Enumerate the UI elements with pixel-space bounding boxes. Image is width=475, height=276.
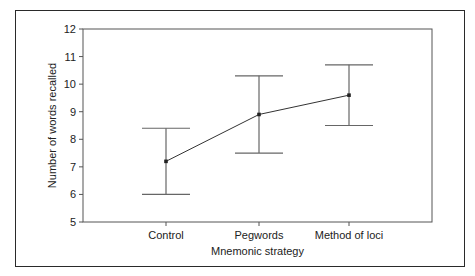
series-line bbox=[166, 95, 349, 161]
x-axis-title: Mnemonic strategy bbox=[211, 245, 304, 257]
y-tick-label: 9 bbox=[70, 106, 76, 118]
x-tick-label: Pegwords bbox=[235, 229, 284, 241]
y-tick-label: 12 bbox=[64, 23, 76, 35]
y-tick-label: 10 bbox=[64, 78, 76, 90]
plot-area bbox=[83, 29, 432, 222]
x-tick-label: Control bbox=[148, 229, 183, 241]
y-tick-label: 7 bbox=[70, 161, 76, 173]
line-chart: 56789101112ControlPegwordsMethod of loci… bbox=[0, 0, 475, 276]
y-tick-label: 11 bbox=[65, 51, 76, 63]
y-axis-title: Number of words recalled bbox=[46, 63, 58, 188]
data-point-marker bbox=[164, 160, 168, 164]
x-tick-label: Method of loci bbox=[315, 229, 383, 241]
data-point-marker bbox=[347, 93, 351, 97]
y-tick-label: 8 bbox=[70, 133, 76, 145]
y-tick-label: 6 bbox=[70, 188, 76, 200]
y-tick-label: 5 bbox=[70, 216, 76, 228]
data-point-marker bbox=[257, 113, 261, 117]
